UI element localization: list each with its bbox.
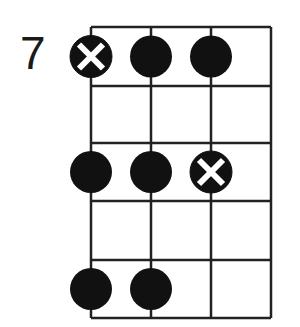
root-note-marker xyxy=(70,36,112,78)
fretboard-grid xyxy=(91,27,271,318)
fretboard-diagram xyxy=(0,0,300,327)
note-markers xyxy=(70,36,232,311)
note-marker xyxy=(130,36,172,78)
root-note-marker xyxy=(190,151,232,193)
note-marker xyxy=(190,36,232,78)
note-marker xyxy=(70,151,112,193)
note-marker xyxy=(130,268,172,310)
note-marker xyxy=(70,268,112,310)
note-marker xyxy=(130,151,172,193)
